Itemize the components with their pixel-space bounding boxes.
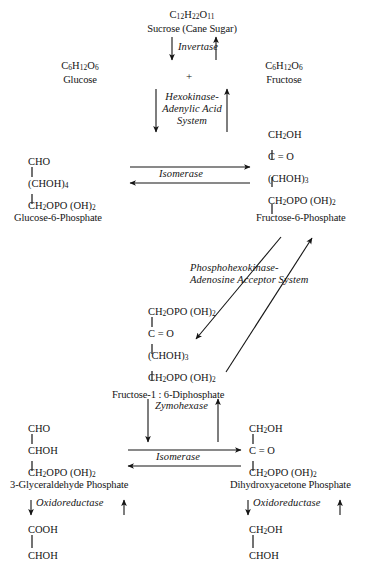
product-right-chain-0: CH2OH xyxy=(249,525,282,538)
sucrose-label: Sucrose (Cane Sugar) xyxy=(122,24,262,35)
f6p-chain-2: (CHOH)3 xyxy=(268,174,336,187)
f6p-chain-0: CH2OH xyxy=(268,130,336,143)
enzyme-phosphohexokinase: Phosphohexokinase- Adenosine Acceptor Sy… xyxy=(190,262,308,286)
dihydroxyacetone-phosphate-label: Dihydroxyacetone Phosphate xyxy=(230,479,351,490)
arrow-phosphohexokinase-up-right xyxy=(226,238,312,372)
dhap-chain-0: CH2OH xyxy=(249,424,317,437)
glucose-sub-c: 6 xyxy=(68,63,72,72)
g6p-chain-1: (CHOH)4 xyxy=(28,179,96,192)
fructose-sub-h: 12 xyxy=(284,63,292,72)
enzyme-zymohexase: Zymohexase xyxy=(155,400,208,412)
node-glucose-6-phosphate: CHO (CHOH)4 CH2OPO (OH)2 xyxy=(28,157,96,214)
node-3-glyceraldehyde-phosphate: CHO CHOH CH2OPO (OH)2 xyxy=(28,424,96,481)
enzyme-hexokinase-line-2: Adenylic Acid xyxy=(160,103,224,115)
product-left-chain-0: COOH xyxy=(28,525,58,538)
glucose-sub-o: 6 xyxy=(95,63,99,72)
node-product-right: CH2OH CHOH xyxy=(249,525,282,564)
node-sucrose: C12H22O11 Sucrose (Cane Sugar) xyxy=(122,10,262,34)
fructose-label: Fructose xyxy=(246,75,322,86)
glucose-sub-h: 12 xyxy=(80,63,88,72)
enzyme-hexokinase: Hexokinase- Adenylic Acid System xyxy=(160,91,224,126)
sucrose-formula: C12H22O11 xyxy=(122,10,262,21)
sucrose-sub-c: 12 xyxy=(177,12,185,21)
glucose-label: Glucose xyxy=(44,75,116,86)
f6p-chain-1: C = O xyxy=(268,152,336,165)
node-fructose-6-phosphate: CH2OH C = O (CHOH)3 CH2OPO (OH)2 xyxy=(268,130,336,209)
glucose-formula: C6H12O6 xyxy=(44,61,116,72)
fructose-sub-o: 6 xyxy=(299,63,303,72)
fructose-sub-c: 6 xyxy=(272,63,276,72)
sucrose-sub-o: 11 xyxy=(207,12,214,21)
sucrose-sub-h: 22 xyxy=(192,12,200,21)
enzyme-oxidoreductase-right: Oxidoreductase xyxy=(253,497,321,509)
enzyme-phosphohexokinase-line-2: Adenosine Acceptor System xyxy=(190,274,308,286)
fdp-chain-2: (CHOH)3 xyxy=(148,351,216,364)
fructose-formula: C6H12O6 xyxy=(246,61,322,72)
fdp-chain-3: CH2OPO (OH)2 xyxy=(148,373,216,386)
glycolysis-pathway-diagram: C12H22O11 Sucrose (Cane Sugar) Invertase… xyxy=(0,0,373,576)
g6p-chain-0: CHO xyxy=(28,157,96,170)
gap-chain-1: CHOH xyxy=(28,446,96,459)
enzyme-phosphohexokinase-line-1: Phosphohexokinase- xyxy=(190,262,308,274)
node-fructose: C6H12O6 Fructose xyxy=(246,61,322,85)
node-dihydroxyacetone-phosphate: CH2OH C = O CH2OPO (OH)2 xyxy=(249,424,317,481)
glyceraldehyde-3-phosphate-label: 3-Glyceraldehyde Phosphate xyxy=(10,479,128,490)
product-right-chain-1: CHOH xyxy=(249,551,282,564)
fdp-chain-1: C = O xyxy=(148,329,216,342)
enzyme-oxidoreductase-left: Oxidoreductase xyxy=(36,497,104,509)
enzyme-isomerase-top: Isomerase xyxy=(159,168,203,180)
glucose-6-phosphate-label: Glucose-6-Phosphate xyxy=(14,212,102,223)
enzyme-hexokinase-line-1: Hexokinase- xyxy=(160,91,224,103)
node-glucose: C6H12O6 Glucose xyxy=(44,61,116,85)
enzyme-isomerase-bottom: Isomerase xyxy=(156,451,200,463)
f6p-chain-3: CH2OPO (OH)2 xyxy=(268,196,336,209)
plus-sign: + xyxy=(186,71,192,82)
fdp-chain-0: CH2OPO (OH)2 xyxy=(148,307,216,320)
product-left-chain-1: CHOH xyxy=(28,551,58,564)
node-product-left: COOH CHOH xyxy=(28,525,58,564)
fructose-6-phosphate-label: Fructose-6-Phosphate xyxy=(256,212,346,223)
fructose-1-6-diphosphate-label: Fructose-1 : 6-Diphosphate xyxy=(112,389,224,400)
enzyme-hexokinase-line-3: System xyxy=(160,115,224,127)
dhap-chain-1: C = O xyxy=(249,446,317,459)
enzyme-invertase: Invertase xyxy=(178,41,218,53)
node-fructose-1-6-diphosphate: CH2OPO (OH)2 C = O (CHOH)3 CH2OPO (OH)2 xyxy=(148,307,216,386)
gap-chain-0: CHO xyxy=(28,424,96,437)
